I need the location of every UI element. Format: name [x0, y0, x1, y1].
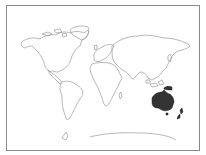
antarctic-peninsula	[62, 132, 68, 140]
world-map	[0, 0, 206, 155]
tasmania	[166, 113, 168, 115]
madagascar	[119, 92, 122, 99]
new-guinea	[164, 86, 172, 90]
southeast-asia-islands	[146, 80, 164, 87]
british-isles	[94, 45, 97, 50]
south-america	[60, 81, 83, 119]
north-america	[21, 30, 88, 72]
asia	[112, 35, 190, 80]
australia	[152, 90, 174, 111]
greenland	[70, 26, 89, 40]
antarctica	[90, 133, 176, 140]
japan	[168, 54, 172, 62]
new-zealand	[177, 108, 183, 119]
africa	[90, 63, 122, 107]
